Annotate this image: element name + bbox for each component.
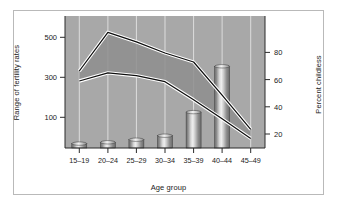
bar-35-39[interactable] — [186, 110, 201, 148]
cat-label-45-49: 45–49 — [241, 156, 261, 165]
bar-40-44[interactable] — [215, 65, 230, 148]
cat-label-15-19: 15–19 — [69, 156, 89, 165]
left-tick-500: 500 — [44, 33, 57, 42]
bottom-axis: 15–19 20–24 25–29 30–34 35–39 40–44 45–4… — [69, 148, 260, 165]
right-tick-80: 80 — [274, 48, 282, 57]
cat-label-35-39: 35–39 — [184, 156, 204, 165]
left-tick-100: 100 — [44, 113, 57, 122]
left-axis-title: Range of fertility rates — [12, 33, 21, 133]
left-axis: 500 300 100 — [44, 33, 65, 122]
cat-label-25-29: 25–29 — [126, 156, 146, 165]
left-tick-300: 300 — [44, 73, 57, 82]
right-tick-20: 20 — [274, 130, 282, 139]
x-axis-title: Age group — [0, 183, 337, 192]
right-tick-40: 40 — [274, 103, 282, 112]
bar-15-19[interactable] — [72, 142, 87, 148]
plot-area — [65, 16, 265, 148]
cat-label-40-44: 40–44 — [212, 156, 232, 165]
right-axis: 80 60 40 20 — [265, 48, 282, 139]
chart-canvas: 500 300 100 80 60 40 20 — [0, 0, 337, 202]
cat-label-20-24: 20–24 — [98, 156, 118, 165]
bar-30-34[interactable] — [158, 134, 173, 148]
bar-20-24[interactable] — [100, 141, 115, 148]
right-axis-title: Percent childless — [314, 37, 323, 133]
bar-25-29[interactable] — [129, 138, 144, 148]
cat-label-30-34: 30–34 — [155, 156, 175, 165]
figure-container: 500 300 100 80 60 40 20 — [0, 0, 337, 202]
right-tick-60: 60 — [274, 76, 282, 85]
